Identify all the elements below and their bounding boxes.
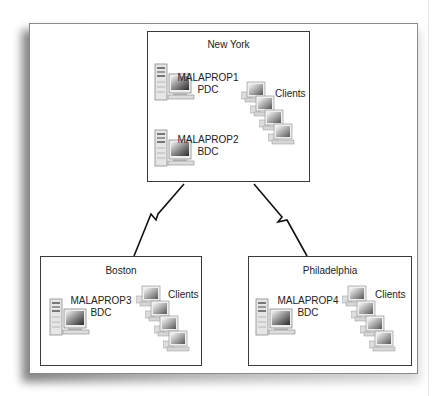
site-title: New York <box>148 39 309 50</box>
server-role: BDC <box>66 307 136 319</box>
clients-label: Clients <box>375 289 406 300</box>
site-new-york: New York MALAPROP1 PDC MALAPROP2 BDC Cli… <box>147 31 310 182</box>
server-role: PDC <box>173 84 243 96</box>
server-name: MALAPROP1 <box>173 72 243 84</box>
server-label: MALAPROP2 BDC <box>173 134 243 158</box>
client-computer-icon <box>163 330 191 352</box>
server-role: BDC <box>273 307 343 319</box>
site-boston: Boston MALAPROP3 BDC Clients <box>40 256 202 366</box>
server-name: MALAPROP4 <box>273 295 343 307</box>
server-name: MALAPROP2 <box>173 134 243 146</box>
site-philadelphia: Philadelphia MALAPROP4 BDC Clients <box>248 256 412 366</box>
lightning-bolt-icon <box>254 184 307 256</box>
site-title: Philadelphia <box>249 265 411 276</box>
client-computer-icon <box>268 123 296 145</box>
server-label: MALAPROP1 PDC <box>173 72 243 96</box>
clients-label: Clients <box>168 289 199 300</box>
server-label: MALAPROP3 BDC <box>66 295 136 319</box>
server-label: MALAPROP4 BDC <box>273 295 343 319</box>
lightning-bolt-icon <box>134 184 184 256</box>
server-role: BDC <box>173 146 243 158</box>
client-computer-icon <box>369 330 397 352</box>
clients-label: Clients <box>275 88 306 99</box>
server-name: MALAPROP3 <box>66 295 136 307</box>
site-title: Boston <box>41 265 201 276</box>
